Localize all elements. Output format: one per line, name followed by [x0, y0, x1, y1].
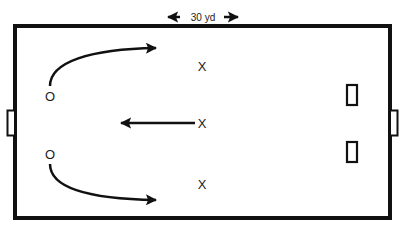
defender-bottom: X — [198, 177, 207, 192]
drill-diagram: 30 yd O O X X X — [0, 0, 404, 229]
small-goal-bottom — [347, 142, 357, 162]
defender-middle: X — [198, 116, 207, 131]
run-arrow-top — [50, 48, 156, 86]
right-goal — [390, 111, 398, 136]
attacker-top: O — [45, 89, 55, 104]
dimension-indicator: 30 yd — [168, 12, 238, 23]
left-goal — [8, 111, 16, 136]
run-arrow-bottom — [50, 164, 156, 200]
small-goal-top — [347, 85, 357, 105]
attacker-bottom: O — [45, 147, 55, 162]
dimension-label: 30 yd — [191, 12, 215, 23]
defender-top: X — [198, 59, 207, 74]
